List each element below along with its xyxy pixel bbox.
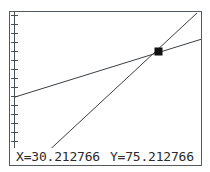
- series-line-1-shallow: [15, 39, 201, 97]
- calculator-screen: X=30.212766 Y=75.212766: [9, 11, 202, 166]
- coordinate-readout-bar: X=30.212766 Y=75.212766: [10, 148, 201, 165]
- readout-y-value: Y=75.212766: [110, 150, 194, 163]
- readout-x-value: X=30.212766: [16, 150, 100, 163]
- series-line-2-steep: [43, 13, 197, 156]
- intersection-cursor-icon: [155, 48, 163, 56]
- plot-area: [10, 12, 201, 165]
- graph-canvas: [10, 12, 201, 165]
